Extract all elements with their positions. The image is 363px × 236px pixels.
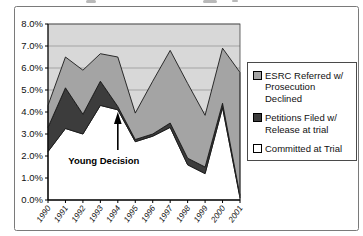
y-axis-label: 3.0% bbox=[21, 128, 43, 139]
legend-label-committed-line1: Committed at Trial bbox=[265, 143, 342, 154]
y-axis-label: 5.0% bbox=[21, 84, 43, 95]
y-axis-label: 4.0% bbox=[21, 106, 43, 117]
legend-label-esrc-line1: ESRC Referred w/ bbox=[265, 70, 353, 81]
legend-swatch-committed-icon bbox=[253, 144, 262, 153]
legend-swatch-petitions-icon bbox=[253, 113, 262, 122]
annotation-text: Young Decision bbox=[68, 155, 139, 166]
y-axis-label: 7.0% bbox=[21, 40, 43, 51]
legend-swatch-esrc-icon bbox=[253, 71, 262, 80]
y-axis-label: 6.0% bbox=[21, 62, 43, 73]
legend-label-petitions-line1: Petitions Filed w/ bbox=[265, 112, 337, 123]
y-axis-label: 1.0% bbox=[21, 172, 43, 183]
y-axis-label: 8.0% bbox=[21, 18, 43, 29]
legend-item-petitions: Petitions Filed w/ Release at trial bbox=[253, 112, 353, 135]
chart-screenshot: 0.0%1.0%2.0%3.0%4.0%5.0%6.0%7.0%8.0%1990… bbox=[0, 0, 363, 236]
legend-item-esrc: ESRC Referred w/ Prosecution Declined bbox=[253, 70, 353, 104]
legend-label-esrc-line2: Prosecution Declined bbox=[265, 81, 353, 104]
y-axis-label: 0.0% bbox=[21, 194, 43, 205]
chart-legend: ESRC Referred w/ Prosecution Declined Pe… bbox=[247, 62, 357, 161]
legend-item-committed: Committed at Trial bbox=[253, 143, 353, 154]
legend-label-petitions-line2: Release at trial bbox=[265, 124, 337, 135]
y-axis-label: 2.0% bbox=[21, 150, 43, 161]
